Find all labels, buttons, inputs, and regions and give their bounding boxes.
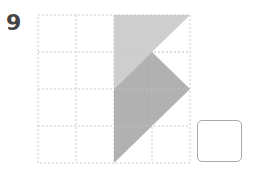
answer-box[interactable] <box>197 120 242 162</box>
